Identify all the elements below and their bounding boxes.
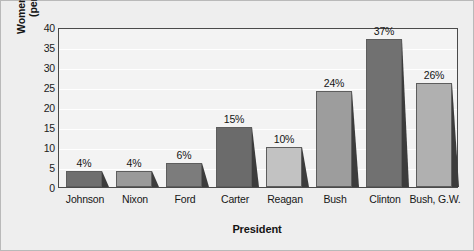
x-axis-tick-label: Bush, G.W.: [409, 193, 460, 205]
y-axis-tick-label: 10: [31, 142, 55, 154]
x-axis-tick-label: Johnson: [66, 193, 104, 205]
bar[interactable]: [216, 127, 252, 187]
y-axis-title-line-1: Women Appointees: [15, 0, 28, 34]
y-axis-tick-label: 20: [31, 102, 55, 114]
bar-value-label: 6%: [177, 149, 192, 161]
bar-value-label: 4%: [127, 157, 142, 169]
bar-value-label: 37%: [374, 25, 394, 37]
bar-slot: 26%: [416, 29, 452, 187]
bar-shadow: [152, 171, 159, 187]
y-axis-tick-label: 30: [31, 62, 55, 74]
bar[interactable]: [116, 171, 152, 187]
bar-shadow: [102, 171, 109, 187]
bar[interactable]: [266, 147, 302, 187]
x-axis-tick-label: Reagan: [267, 193, 303, 205]
bar-series: 4%4%6%15%10%24%37%26%: [59, 29, 457, 187]
x-axis-tick-label: Clinton: [369, 193, 400, 205]
bar-value-label: 4%: [77, 157, 92, 169]
bar-slot: 4%: [66, 29, 102, 187]
y-axis-tick-label: 40: [31, 22, 55, 34]
bar-shadow: [402, 39, 409, 187]
plot-area: 4%4%6%15%10%24%37%26%: [58, 28, 458, 188]
bar-shadow: [302, 147, 309, 187]
x-axis-tick-label: Nixon: [122, 193, 148, 205]
bar-shadow: [352, 91, 359, 187]
bar-shadow: [202, 163, 209, 187]
y-axis-tick-label: 25: [31, 82, 55, 94]
x-axis-tick-label: Ford: [175, 193, 196, 205]
bar[interactable]: [166, 163, 202, 187]
bar-slot: 15%: [216, 29, 252, 187]
bar[interactable]: [366, 39, 402, 187]
bar-slot: 4%: [116, 29, 152, 187]
y-axis-tick-label: 15: [31, 122, 55, 134]
bar[interactable]: [316, 91, 352, 187]
bar-slot: 24%: [316, 29, 352, 187]
bar-value-label: 26%: [424, 69, 444, 81]
bar[interactable]: [416, 83, 452, 187]
x-axis-title: President: [57, 223, 457, 235]
bar-shadow: [452, 83, 459, 187]
x-axis-tick-labels: JohnsonNixonFordCarterReaganBushClintonB…: [58, 193, 458, 209]
bar-value-label: 24%: [324, 77, 344, 89]
bar-value-label: 10%: [274, 133, 294, 145]
bar-value-label: 15%: [224, 113, 244, 125]
chart-figure: Women Appointees (percentage) 0510152025…: [0, 0, 474, 251]
bar-slot: 37%: [366, 29, 402, 187]
y-axis-tick-labels: 0510152025303540: [31, 28, 55, 188]
bar-shadow: [252, 127, 259, 187]
bar-slot: 6%: [166, 29, 202, 187]
y-axis-tick-label: 0: [31, 182, 55, 194]
bar[interactable]: [66, 171, 102, 187]
y-axis-tick-label: 5: [31, 162, 55, 174]
y-axis-title-line-2: (percentage): [27, 0, 40, 17]
x-axis-tick-label: Carter: [221, 193, 249, 205]
y-axis-tick-label: 35: [31, 42, 55, 54]
bar-slot: 10%: [266, 29, 302, 187]
x-axis-tick-label: Bush: [323, 193, 346, 205]
